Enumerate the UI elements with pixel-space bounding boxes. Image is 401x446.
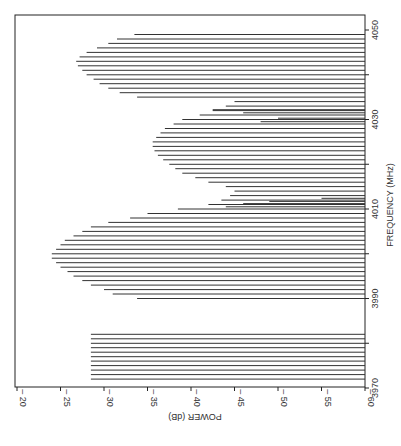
spectrum-chart: 39703990401040304050– 20– 25– 30– 35– 40… (0, 0, 401, 446)
power-tick-label: – 30 (105, 389, 115, 407)
frequency-tick-label: 4010 (370, 199, 380, 219)
frequency-axis-title: FREQUENCY (MHz) (385, 163, 395, 246)
power-tick-label: – 45 (236, 389, 246, 407)
power-tick-label: – 35 (149, 389, 159, 407)
power-tick-label: – 25 (62, 389, 72, 407)
power-tick-label: – 50 (279, 389, 289, 407)
spectral-lines (52, 35, 365, 380)
power-tick-label: – 60 (366, 389, 376, 407)
frequency-tick-label: 4050 (370, 20, 380, 40)
power-tick-label: – 40 (192, 389, 202, 407)
power-tick-label: – 55 (323, 389, 333, 407)
frequency-tick-label: 3990 (370, 288, 380, 308)
power-axis-title: POWER (dB) (168, 412, 222, 422)
power-tick-label: – 20 (18, 389, 28, 407)
frequency-tick-label: 4030 (370, 109, 380, 129)
